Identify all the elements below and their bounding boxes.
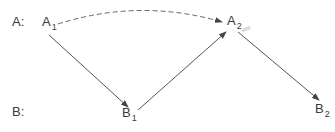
node-b2: B2 bbox=[315, 102, 330, 115]
node-b2-sub: 2 bbox=[325, 109, 330, 119]
node-a2-base: A bbox=[227, 13, 236, 28]
node-a1-sub: 1 bbox=[52, 22, 57, 32]
node-b2-base: B bbox=[315, 101, 324, 116]
row-label-a: A: bbox=[12, 15, 24, 28]
edge-a1-a2-dashed bbox=[58, 10, 222, 24]
node-a1: A1 bbox=[42, 15, 57, 28]
edge-a1-b1-arrow bbox=[49, 35, 128, 107]
row-label-a-text: A: bbox=[12, 14, 24, 29]
row-label-b: B: bbox=[12, 105, 24, 118]
smudge-mark bbox=[241, 25, 252, 33]
node-a2: A2 bbox=[227, 14, 242, 27]
node-b1: B1 bbox=[122, 106, 137, 119]
node-a1-base: A bbox=[42, 14, 51, 29]
row-label-b-text: B: bbox=[12, 104, 24, 119]
node-a2-sub: 2 bbox=[237, 21, 242, 31]
node-b1-sub: 1 bbox=[132, 113, 137, 123]
node-b1-base: B bbox=[122, 105, 131, 120]
edge-b1-a2-arrow bbox=[138, 32, 226, 110]
edge-a2-b2-arrow bbox=[238, 32, 319, 100]
